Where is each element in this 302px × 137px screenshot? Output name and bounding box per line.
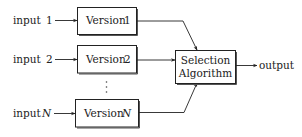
vertical-ellipsis [106,81,108,93]
selection-algorithm-box: Selection Algorithm [176,51,237,85]
input-n-label: input N [13,107,52,119]
selector-line-2: Algorithm [178,67,232,79]
input-1-label: input 1 [13,14,53,26]
input-2-text: input [13,53,42,65]
version-1-box: Version 1 [78,8,138,36]
version-n-index: N [121,107,132,119]
arrow-version-1-to-selector [137,21,197,50]
selector-line-1: Selection [181,54,231,66]
input-2-index: 2 [46,53,53,65]
input-2-label: input 2 [13,53,53,65]
version-2-index: 2 [124,53,131,65]
input-n-index: N [41,107,52,119]
version-n-text: Version [83,107,124,119]
version-2-box: Version 2 [78,46,138,75]
arrow-version-n-to-selector [139,83,197,113]
input-n-text: input [13,107,42,119]
input-1-index: 1 [46,14,53,26]
version-2-text: Version [85,53,126,65]
version-1-text: Version [85,14,126,26]
output-label: output [259,59,295,71]
version-1-index: 1 [124,14,131,26]
input-1-text: input [13,14,42,26]
n-version-diagram: input 1 input 2 input N Version 1 Versio… [0,0,302,137]
version-n-box: Version N [76,100,140,129]
